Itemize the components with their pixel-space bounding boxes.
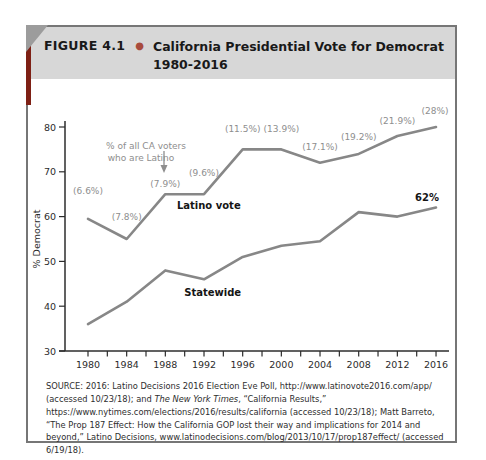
latino-share-annotation: (7.9%) xyxy=(150,179,180,189)
y-tick-label: 60 xyxy=(44,211,56,222)
latino-share-annotation: (9.6%) xyxy=(189,168,219,178)
latino-share-annotation: (28%) xyxy=(421,106,448,116)
series-label-latino-vote: Latino vote xyxy=(177,200,241,211)
latino-share-annotation: (19.2%) xyxy=(341,132,377,142)
latino-share-annotation: (17.1%) xyxy=(302,142,338,152)
latino-share-annotation: (6.6%) xyxy=(73,186,103,196)
series-label-statewide: Statewide xyxy=(184,287,241,298)
y-axis-title: % Democrat xyxy=(31,209,42,268)
x-tick-label: 1988 xyxy=(153,359,177,370)
corner-fold-decoration xyxy=(26,25,48,52)
x-tick-label: 2012 xyxy=(385,359,409,370)
x-tick-label: 1996 xyxy=(231,359,255,370)
x-tick-label: 2008 xyxy=(347,359,371,370)
latino-share-note-line2: who are Latino xyxy=(108,153,175,163)
x-tick-label: 2004 xyxy=(308,359,332,370)
y-tick-label: 80 xyxy=(44,122,56,133)
x-tick-label: 2016 xyxy=(424,359,448,370)
latino-share-annotation: (13.9%) xyxy=(264,124,300,134)
figure-title-line1: California Presidential Vote for Democra… xyxy=(153,39,444,54)
y-tick-label: 30 xyxy=(44,346,56,357)
figure-panel: FIGURE 4.1 ● California Presidential Vot… xyxy=(26,25,457,443)
x-tick-label: 1992 xyxy=(192,359,216,370)
latino-share-annotation: (21.9%) xyxy=(380,116,416,126)
latino-share-annotation: (11.5%) xyxy=(225,124,261,134)
source-note: SOURCE: 2016: Latino Decisions 2016 Elec… xyxy=(46,380,452,457)
statewide-end-value: 62% xyxy=(415,192,439,203)
figure-title: California Presidential Vote for Democra… xyxy=(153,38,444,73)
y-tick-label: 70 xyxy=(44,166,56,177)
down-arrow-icon xyxy=(161,165,168,173)
x-tick-label: 2000 xyxy=(269,359,293,370)
y-tick-label: 40 xyxy=(44,301,56,312)
bullet-icon: ● xyxy=(135,38,144,53)
figure-title-line2: 1980-2016 xyxy=(153,57,228,72)
x-tick-label: 1980 xyxy=(76,359,100,370)
y-tick-label: 50 xyxy=(44,256,56,267)
x-tick-label: 1984 xyxy=(115,359,139,370)
line-chart: 3040506070801980198419881992199620002004… xyxy=(28,79,455,379)
figure-header: FIGURE 4.1 ● California Presidential Vot… xyxy=(28,27,455,79)
latino-share-note-line1: % of all CA voters xyxy=(106,141,186,151)
figure-label: FIGURE 4.1 xyxy=(44,38,125,53)
latino-share-annotation: (7.8%) xyxy=(112,212,142,222)
source-italic-segment: The New York Times xyxy=(154,394,238,404)
